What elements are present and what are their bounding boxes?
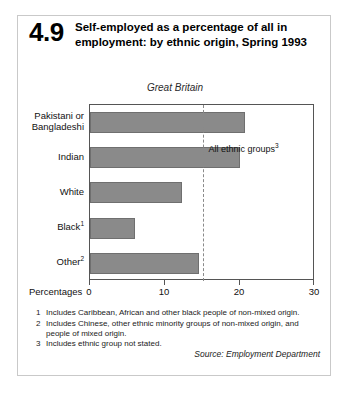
- bar-row: [90, 175, 313, 210]
- x-axis-tick-label: 20: [234, 286, 245, 297]
- category-label-text: Black: [57, 221, 80, 232]
- footnote-text: Includes Chinese, other ethnic minority …: [46, 319, 299, 338]
- figure-header: 4.9 Self-employed as a percentage of all…: [18, 16, 332, 78]
- bar-row: [90, 140, 313, 175]
- x-axis-tick-label: 10: [159, 286, 170, 297]
- figure-number: 4.9: [29, 19, 64, 45]
- x-axis: 0102030: [89, 280, 314, 302]
- source-note: Source: Employment Department: [18, 349, 320, 359]
- category-label-superscript: 2: [80, 255, 84, 262]
- footnote-marker: 2: [36, 319, 40, 329]
- category-label: White: [18, 186, 84, 198]
- bar-row: [90, 105, 313, 140]
- bar: [90, 112, 245, 133]
- category-label-superscript: 1: [80, 220, 84, 227]
- category-label-text: Indian: [58, 151, 84, 162]
- reference-line: [203, 105, 204, 281]
- footnote-text: Includes ethnic group not stated.: [46, 339, 162, 348]
- category-label-text: White: [60, 186, 84, 197]
- footnote-marker: 1: [36, 308, 40, 318]
- category-label: Indian: [18, 151, 84, 163]
- reference-line-label: All ethnic groups3: [209, 144, 279, 154]
- x-axis-tick-mark: [313, 280, 314, 285]
- footnote-item: 1Includes Caribbean, African and other b…: [36, 308, 316, 318]
- bar: [90, 253, 199, 274]
- x-axis-tick-label: 0: [86, 286, 91, 297]
- footnote-text: Includes Caribbean, African and other bl…: [46, 308, 300, 317]
- reference-line-label-text: All ethnic groups: [209, 144, 276, 154]
- footnote-item: 2Includes Chinese, other ethnic minority…: [36, 319, 316, 339]
- figure-subtitle: Great Britain: [18, 82, 332, 93]
- footnote-marker: 3: [36, 339, 40, 349]
- category-label-text: Pakistani or Bangladeshi: [32, 110, 84, 133]
- x-axis-tick-label: 30: [309, 286, 320, 297]
- x-axis-tick-mark: [89, 280, 90, 285]
- bar: [90, 182, 182, 203]
- footnote-item: 3Includes ethnic group not stated.: [36, 339, 316, 349]
- figure-title: Self-employed as a percentage of all in …: [75, 20, 323, 49]
- bar: [90, 218, 135, 239]
- x-axis-title: Percentages: [29, 286, 82, 297]
- plot-area: [89, 104, 314, 280]
- category-label-text: Other: [57, 256, 81, 267]
- category-label: Other2: [18, 256, 84, 268]
- reference-line-superscript: 3: [275, 142, 279, 149]
- category-label: Black1: [18, 221, 84, 233]
- category-label: Pakistani or Bangladeshi: [18, 110, 84, 133]
- bar-row: [90, 246, 313, 281]
- x-axis-tick-mark: [164, 280, 165, 285]
- bar-row: [90, 211, 313, 246]
- figure-card: 4.9 Self-employed as a percentage of all…: [17, 15, 331, 376]
- x-axis-tick-mark: [239, 280, 240, 285]
- footnotes-list: 1Includes Caribbean, African and other b…: [36, 308, 316, 350]
